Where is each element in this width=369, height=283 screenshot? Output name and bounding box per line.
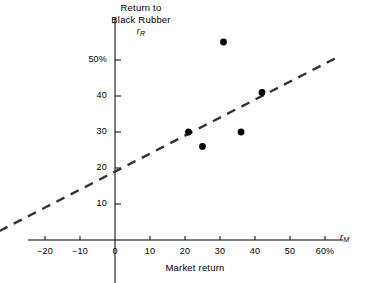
data-point [220, 39, 227, 46]
data-point [185, 129, 192, 136]
x-axis-tick-label: 60% [310, 246, 340, 256]
x-axis-title: Market return [140, 262, 250, 274]
x-axis-symbol: rM [340, 232, 349, 246]
x-axis-tick-label: 40 [240, 246, 270, 256]
x-axis-tick-label: 30 [205, 246, 235, 256]
y-axis-symbol-subscript: R [140, 30, 145, 37]
data-point [238, 129, 245, 136]
y-axis-tick-label: 40 [73, 90, 107, 100]
x-axis-symbol-subscript: M [343, 236, 349, 243]
y-axis-tick-label: 30 [73, 126, 107, 136]
y-axis-tick-label: 20 [73, 162, 107, 172]
x-axis-tick-label: −10 [65, 246, 95, 256]
y-axis-title-line2: Black Rubber [86, 14, 196, 26]
y-axis-tick-label: 10 [73, 198, 107, 208]
scatter-plot-figure: Return to Black Rubber rR rM Market retu… [0, 0, 369, 283]
x-axis-tick-label: 50 [275, 246, 305, 256]
x-axis-tick-label: 20 [170, 246, 200, 256]
x-axis-tick-label: 0 [100, 246, 130, 256]
data-points-group [185, 39, 265, 150]
ticks-group [45, 60, 325, 240]
y-axis-tick-label: 50% [73, 54, 107, 64]
data-point [199, 143, 206, 150]
data-point [259, 89, 266, 96]
y-axis-title-line1: Return to [86, 2, 196, 14]
x-axis-tick-label: −20 [30, 246, 60, 256]
plot-canvas [0, 0, 369, 283]
y-axis-symbol: rR [86, 26, 196, 40]
regression-line-dashed [0, 58, 336, 231]
y-axis-title: Return to Black Rubber [86, 2, 196, 25]
regression-line [0, 58, 336, 231]
x-axis-tick-label: 10 [135, 246, 165, 256]
